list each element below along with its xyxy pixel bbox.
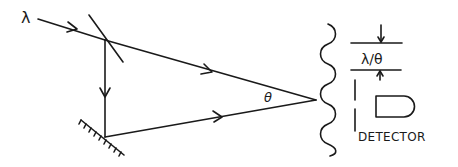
reflected-beam (100, 40, 110, 137)
interferometer-diagram: λ θ (0, 0, 458, 167)
detector-label: DETECTOR (358, 130, 426, 144)
lower-beam (105, 100, 316, 137)
beam-splitter (89, 15, 123, 62)
detector-icon (376, 96, 415, 117)
interference-wavefront (321, 24, 336, 156)
fringe-spacing-label: λ/θ (361, 51, 383, 67)
angle-label: θ (264, 90, 272, 105)
mirror (79, 120, 124, 156)
wavelength-label: λ (21, 8, 30, 27)
upper-beam (105, 40, 316, 100)
